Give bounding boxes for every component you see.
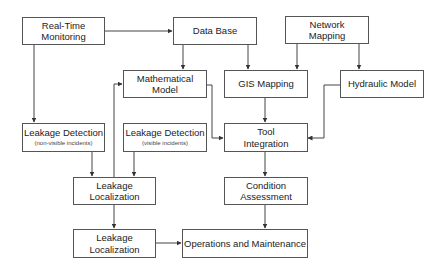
node-label: Real-Time (42, 20, 85, 32)
node-leakage-localization-2: Leakage Localization (73, 229, 156, 258)
node-label: Localization (89, 244, 139, 256)
node-label: Leakage (96, 180, 132, 192)
node-label: Hydraulic Model (348, 78, 416, 90)
node-label: Assessment (240, 191, 292, 203)
node-real-time-monitoring: Real-Time Monitoring (22, 17, 105, 45)
node-label: Localization (89, 191, 139, 203)
node-operations-and-maintenance: Operations and Maintenance (182, 229, 308, 258)
node-label: Leakage Detection (24, 127, 103, 139)
node-leakage-localization-1: Leakage Localization (73, 177, 156, 205)
node-sublabel: (visible incidents) (142, 139, 188, 148)
node-label: Tool (257, 126, 274, 138)
node-sublabel: (non-visible incidents) (34, 139, 92, 148)
node-leakage-detection-visible: Leakage Detection (visible incidents) (123, 123, 207, 152)
node-label: Mathematical (137, 73, 194, 85)
node-data-base: Data Base (173, 17, 257, 45)
node-label: Leakage Detection (125, 127, 204, 139)
node-label: Model (152, 84, 178, 96)
node-hydraulic-model: Hydraulic Model (340, 70, 424, 98)
node-label: Operations and Maintenance (184, 238, 306, 250)
node-label: Leakage (96, 232, 132, 244)
node-mathematical-model: Mathematical Model (123, 70, 207, 98)
node-label: Integration (244, 138, 289, 150)
node-label: Condition (246, 180, 286, 192)
node-network-mapping: Network Mapping (285, 16, 369, 44)
node-tool-integration: Tool Integration (224, 123, 308, 152)
node-label: Data Base (193, 25, 237, 37)
node-condition-assessment: Condition Assessment (224, 177, 308, 205)
node-label: Mapping (309, 30, 345, 42)
node-label: Monitoring (41, 31, 85, 43)
node-leakage-detection-nonvisible: Leakage Detection (non-visible incidents… (22, 123, 105, 152)
node-label: Network (310, 19, 345, 31)
node-gis-mapping: GIS Mapping (224, 70, 308, 98)
node-label: GIS Mapping (238, 78, 293, 90)
